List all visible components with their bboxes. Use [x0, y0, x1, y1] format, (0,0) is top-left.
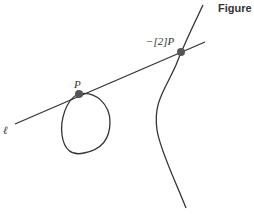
- point-p: [75, 90, 83, 98]
- figure-title: Figure 2: [218, 2, 254, 14]
- elliptic-curve-figure: Figure 2 ℓ P −[2]P: [0, 0, 254, 214]
- line-label: ℓ: [3, 124, 8, 136]
- point-neg2p: [177, 48, 185, 56]
- point-p-label: P: [74, 78, 81, 90]
- tangent-line: [15, 42, 205, 124]
- curve-diagram: [0, 0, 254, 214]
- curve-loop: [62, 93, 110, 153]
- point-neg2p-label: −[2]P: [146, 35, 174, 47]
